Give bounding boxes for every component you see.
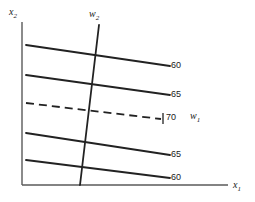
contour-line-65-lower: [26, 133, 170, 155]
contour-diagram: [0, 0, 255, 202]
contour-line-60-upper: [26, 45, 170, 66]
contour-line-65-upper: [26, 75, 170, 95]
x2-axis-label: x2: [9, 7, 17, 20]
contour-value-label-65-lower: 65: [171, 150, 181, 159]
expansion-path-w2-line: [80, 25, 99, 185]
contour-value-label-65-upper: 65: [171, 90, 181, 99]
x1-axis-label: x1: [233, 180, 241, 193]
contour-line-60-lower: [26, 160, 170, 178]
contour-value-label-60-lower: 60: [171, 173, 181, 182]
contour-line-70-dashed: [26, 103, 161, 119]
contour-value-label-60-upper: 60: [171, 61, 181, 70]
expansion-path-w2-label: w2: [89, 9, 99, 22]
contour-family-w1-label: w1: [190, 111, 200, 124]
contour-value-label-70: 70: [166, 113, 176, 122]
